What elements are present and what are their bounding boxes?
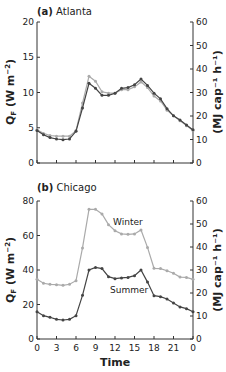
data-point — [49, 316, 52, 319]
data-point — [101, 212, 104, 215]
data-point — [101, 94, 104, 97]
data-point — [49, 136, 52, 139]
data-point — [107, 275, 110, 278]
data-point — [49, 283, 52, 286]
panel-b-title: (b) Chicago — [37, 182, 97, 193]
data-point — [133, 274, 136, 277]
data-point — [166, 269, 169, 272]
data-point — [55, 138, 58, 141]
y-tick-label: 15 — [23, 52, 34, 62]
panel-a-title: (a) Atlanta — [37, 6, 92, 17]
panel-b-ylabel: QF (W m−2) — [4, 237, 18, 303]
data-point — [146, 246, 149, 249]
y-right-tick-label: 0 — [196, 334, 202, 344]
data-point — [75, 130, 78, 133]
data-point — [68, 318, 71, 321]
data-point — [127, 233, 130, 236]
data-point — [153, 92, 156, 95]
y-right-tick-label: 40 — [196, 242, 208, 252]
data-point — [146, 84, 149, 87]
y-right-tick-label: 20 — [196, 288, 208, 298]
series-line-summer — [37, 79, 193, 140]
data-point — [192, 128, 195, 131]
data-point — [62, 135, 65, 138]
data-point — [140, 269, 143, 272]
data-point — [88, 82, 91, 85]
data-point — [179, 305, 182, 308]
data-point — [153, 267, 156, 270]
data-point — [42, 133, 45, 136]
y-right-tick-label: 50 — [196, 219, 208, 229]
y-tick-label: 0 — [28, 158, 34, 168]
summer-annotation: Summer — [110, 285, 148, 295]
data-point — [42, 314, 45, 317]
data-point — [127, 276, 130, 279]
data-point — [179, 276, 182, 279]
x-tick-label: 6 — [73, 343, 79, 353]
data-point — [166, 297, 169, 300]
y-right-tick-label: 20 — [196, 111, 208, 121]
y-right-tick-label: 10 — [196, 135, 208, 145]
data-point — [146, 281, 149, 284]
data-point — [107, 223, 110, 226]
data-point — [159, 295, 162, 298]
data-point — [120, 276, 123, 279]
data-point — [62, 138, 65, 141]
data-point — [94, 266, 97, 269]
data-point — [88, 75, 91, 78]
data-point — [55, 135, 58, 138]
data-point — [185, 276, 188, 279]
x-tick-label: 0 — [190, 343, 196, 353]
data-point — [62, 319, 65, 322]
y-right-tick-label: 10 — [196, 311, 208, 321]
x-tick-label: 3 — [54, 343, 60, 353]
y-tick-label: 5 — [28, 123, 34, 133]
data-point — [42, 282, 45, 285]
data-point — [36, 310, 39, 313]
data-point — [36, 278, 39, 281]
x-tick-label: 9 — [93, 343, 99, 353]
panel-a-plot: 051015200102030405060 — [23, 17, 208, 168]
chart-figure: (a) Atlanta 051015200102030405060 (b) Ch… — [0, 0, 226, 372]
data-point — [62, 284, 65, 287]
data-point — [179, 118, 182, 121]
data-point — [153, 294, 156, 297]
y-right-tick-label: 60 — [196, 196, 208, 206]
y-tick-label: 20 — [23, 300, 35, 310]
y-right-tick-label: 40 — [196, 64, 208, 74]
data-point — [172, 272, 175, 275]
data-point — [172, 114, 175, 117]
data-point — [185, 307, 188, 310]
y-tick-label: 40 — [23, 265, 35, 275]
data-point — [101, 90, 104, 93]
y-right-tick-label: 50 — [196, 41, 208, 51]
data-point — [185, 123, 188, 126]
data-point — [81, 294, 84, 297]
data-point — [166, 107, 169, 110]
data-point — [114, 229, 117, 232]
panel-a-ylabel-right: (MJ cap⁻¹ h⁻¹) — [211, 50, 224, 134]
x-tick-label: 15 — [129, 343, 140, 353]
data-point — [192, 310, 195, 313]
x-tick-label: 21 — [168, 343, 179, 353]
data-point — [68, 283, 71, 286]
data-point — [140, 78, 143, 81]
x-tick-label: 0 — [34, 343, 40, 353]
data-point — [114, 277, 117, 280]
y-right-tick-label: 30 — [196, 265, 208, 275]
data-point — [127, 86, 130, 89]
data-point — [159, 267, 162, 270]
panel-b-ylabel-right: (MJ cap⁻¹ h⁻¹) — [211, 228, 224, 312]
data-point — [101, 267, 104, 270]
series-line-winter — [37, 76, 193, 136]
data-point — [107, 94, 110, 97]
data-point — [81, 107, 84, 110]
x-tick-label: 12 — [109, 343, 120, 353]
data-point — [94, 208, 97, 211]
data-point — [55, 283, 58, 286]
data-point — [133, 83, 136, 86]
data-point — [120, 232, 123, 235]
y-right-tick-label: 0 — [196, 158, 202, 168]
data-point — [75, 314, 78, 317]
data-point — [88, 208, 91, 211]
